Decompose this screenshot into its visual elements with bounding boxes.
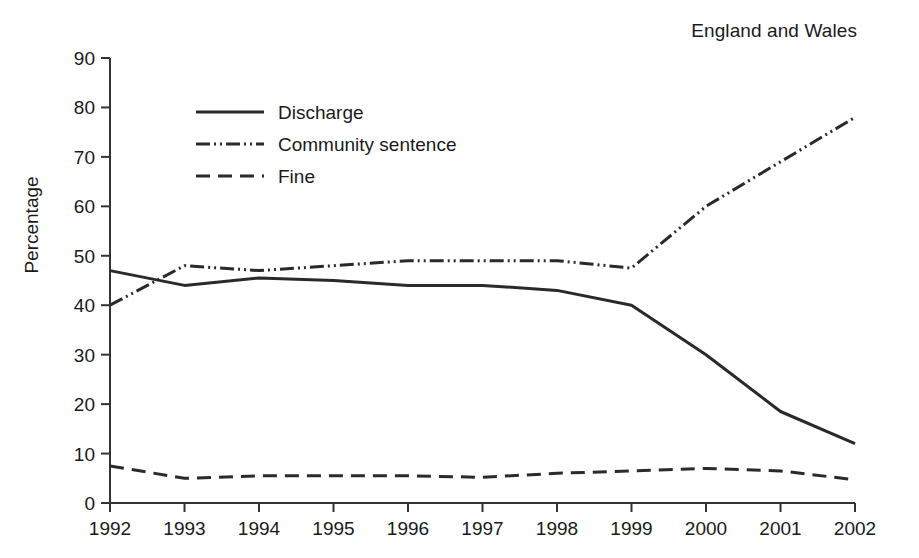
y-tick-label: 40 — [74, 295, 95, 316]
x-tick-label: 1993 — [163, 518, 205, 539]
legend-label-discharge: Discharge — [278, 102, 364, 123]
x-axis: 1992199319941995199619971998199920002001… — [89, 503, 876, 539]
legend-label-community-sentence: Community sentence — [278, 134, 456, 155]
y-tick-label: 50 — [74, 246, 95, 267]
y-tick-label: 30 — [74, 345, 95, 366]
x-tick-label: 1995 — [312, 518, 354, 539]
x-tick-label: 1999 — [610, 518, 652, 539]
y-tick-label: 60 — [74, 196, 95, 217]
y-tick-label: 0 — [84, 493, 95, 514]
y-axis: 0102030405060708090 — [74, 48, 110, 514]
legend-label-fine: Fine — [278, 166, 315, 187]
x-tick-label: 1992 — [89, 518, 131, 539]
x-tick-label: 1994 — [238, 518, 281, 539]
series-line-fine — [110, 466, 855, 480]
x-tick-label: 2002 — [834, 518, 876, 539]
chart-figure: England and Wales Percentage 01020304050… — [0, 0, 919, 558]
x-tick-label: 2001 — [759, 518, 801, 539]
series-line-discharge — [110, 271, 855, 444]
x-tick-label: 1998 — [536, 518, 578, 539]
y-tick-label: 80 — [74, 97, 95, 118]
x-tick-label: 1997 — [461, 518, 503, 539]
x-tick-label: 2000 — [685, 518, 727, 539]
data-series-group — [110, 117, 855, 480]
y-tick-label: 70 — [74, 147, 95, 168]
y-tick-label: 20 — [74, 394, 95, 415]
line-chart-plot: 0102030405060708090 19921993199419951996… — [0, 0, 919, 558]
chart-legend: DischargeCommunity sentenceFine — [196, 102, 456, 187]
y-tick-label: 10 — [74, 444, 95, 465]
y-tick-label: 90 — [74, 48, 95, 69]
x-tick-label: 1996 — [387, 518, 429, 539]
